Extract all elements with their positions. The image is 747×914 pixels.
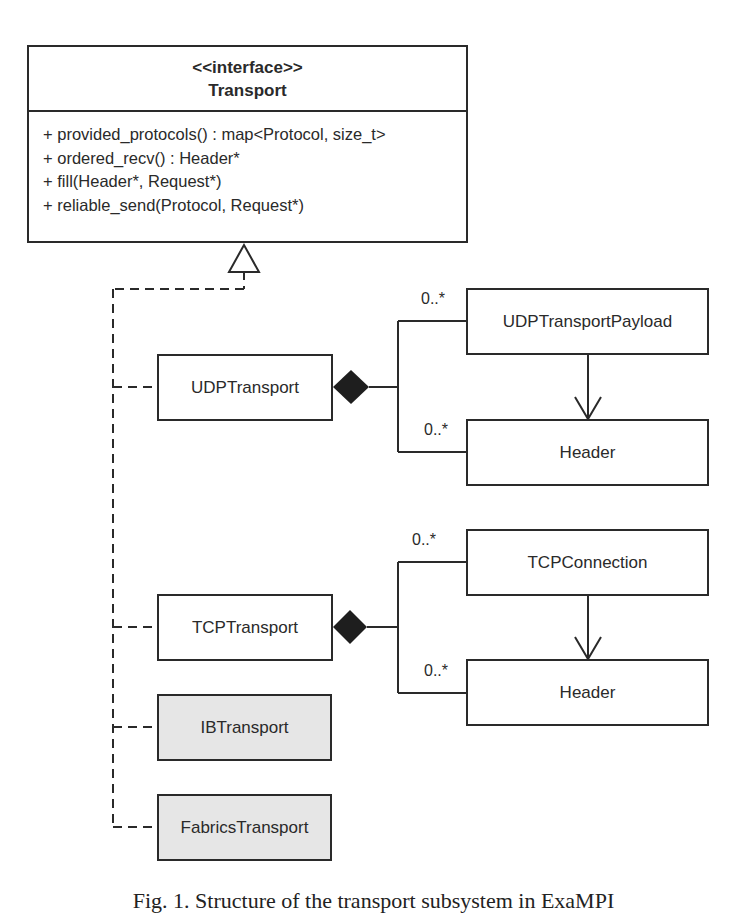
realization-arrowhead-icon	[229, 245, 259, 272]
interface-header: <<interface>> Transport	[29, 47, 466, 112]
composition-diamond-icon	[333, 370, 369, 404]
interface-name: Transport	[208, 79, 286, 102]
transport-interface-box: <<interface>> Transport + provided_proto…	[27, 45, 468, 243]
interface-stereotype: <<interface>>	[192, 56, 303, 79]
class-fabrics-transport: FabricsTransport	[157, 794, 332, 861]
class-tcp-connection: TCPConnection	[466, 529, 709, 596]
operation: + ordered_recv() : Header*	[43, 147, 466, 171]
class-ib-transport: IBTransport	[157, 694, 332, 761]
operation: + fill(Header*, Request*)	[43, 170, 466, 194]
class-tcp-header: Header	[466, 659, 709, 726]
figure-caption: Fig. 1. Structure of the transport subsy…	[0, 888, 747, 914]
interface-operations: + provided_protocols() : map<Protocol, s…	[29, 112, 466, 217]
class-tcp-transport: TCPTransport	[157, 594, 333, 661]
multiplicity-label: 0..*	[421, 290, 445, 308]
multiplicity-label: 0..*	[424, 662, 448, 680]
multiplicity-label: 0..*	[424, 421, 448, 439]
operation: + reliable_send(Protocol, Request*)	[43, 194, 466, 218]
class-udp-transport: UDPTransport	[157, 354, 333, 421]
operation: + provided_protocols() : map<Protocol, s…	[43, 123, 466, 147]
composition-diamond-icon	[333, 610, 367, 644]
multiplicity-label: 0..*	[412, 531, 436, 549]
class-udp-header: Header	[466, 419, 709, 486]
class-udp-transport-payload: UDPTransportPayload	[466, 288, 709, 355]
